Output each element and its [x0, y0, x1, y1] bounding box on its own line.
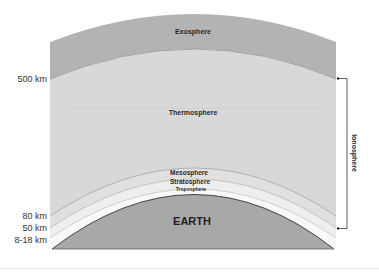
troposphere-label: Troposphere [176, 186, 207, 192]
ionosphere-label: Ionosphere [350, 134, 358, 172]
bottom-divider [0, 268, 379, 269]
altitude-80km-label: 80 km [22, 211, 47, 221]
ionosphere-bracket [337, 78, 347, 230]
earth-label: EARTH [173, 215, 211, 227]
stratosphere-label: Stratosphere [170, 178, 210, 186]
altitude-500km-label: 500 km [17, 74, 47, 84]
bracket-bottom-marker [337, 228, 339, 230]
altitude-8-18km-label: 8-18 km [14, 235, 47, 245]
mesosphere-label: Mesosphere [170, 169, 208, 177]
atmosphere-diagram: Exosphere Thermosphere Mesosphere Strato… [0, 0, 379, 272]
exosphere-label: Exosphere [175, 28, 211, 36]
thermosphere-label: Thermosphere [169, 109, 218, 117]
altitude-50km-label: 50 km [22, 223, 47, 233]
bracket-top-marker [337, 78, 339, 80]
